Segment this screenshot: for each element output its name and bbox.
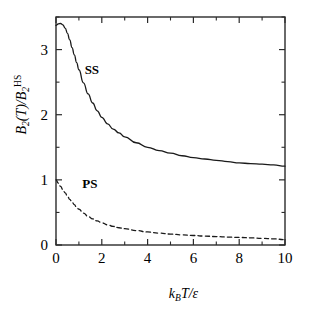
x-tick-label: 10 [278, 250, 293, 266]
figure-container: 02468100123 SSPS B2(T)/B2HS kBT/ε [0, 0, 309, 315]
series-annotations: SSPS [82, 62, 99, 191]
axis-tick-labels: 02468100123 [41, 42, 293, 266]
plot-frame [56, 17, 285, 245]
y-tick-label: 0 [41, 237, 49, 253]
chart-canvas: 02468100123 SSPS [0, 0, 309, 315]
y-axis-label-sup-hs: HS [13, 75, 23, 87]
data-series [56, 24, 285, 240]
y-tick-label: 1 [41, 172, 49, 188]
x-tick-label: 4 [144, 250, 152, 266]
x-axis-label-T: T/ [181, 286, 193, 301]
y-axis-label-sub2b: 2 [21, 87, 31, 92]
y-axis-label: B2(T)/B2HS [13, 45, 30, 165]
x-tick-label: 8 [235, 250, 243, 266]
y-axis-label-B2: B [14, 92, 29, 101]
y-tick-label: 2 [41, 107, 49, 123]
y-tick-label: 3 [41, 42, 49, 58]
y-axis-label-paren-T: (T)/ [14, 100, 29, 121]
x-tick-label: 2 [98, 250, 106, 266]
y-axis-label-sub2: 2 [21, 121, 31, 126]
x-axis-label-epsilon: ε [193, 286, 199, 301]
series-label-ps: PS [82, 176, 97, 191]
x-tick-label: 0 [52, 250, 60, 266]
x-tick-label: 6 [190, 250, 198, 266]
axis-ticks [56, 17, 285, 245]
y-axis-label-B: B [14, 126, 29, 135]
series-label-ss: SS [85, 62, 99, 77]
x-axis-label: kBT/ε [0, 286, 309, 303]
series-line-ss [56, 24, 285, 167]
